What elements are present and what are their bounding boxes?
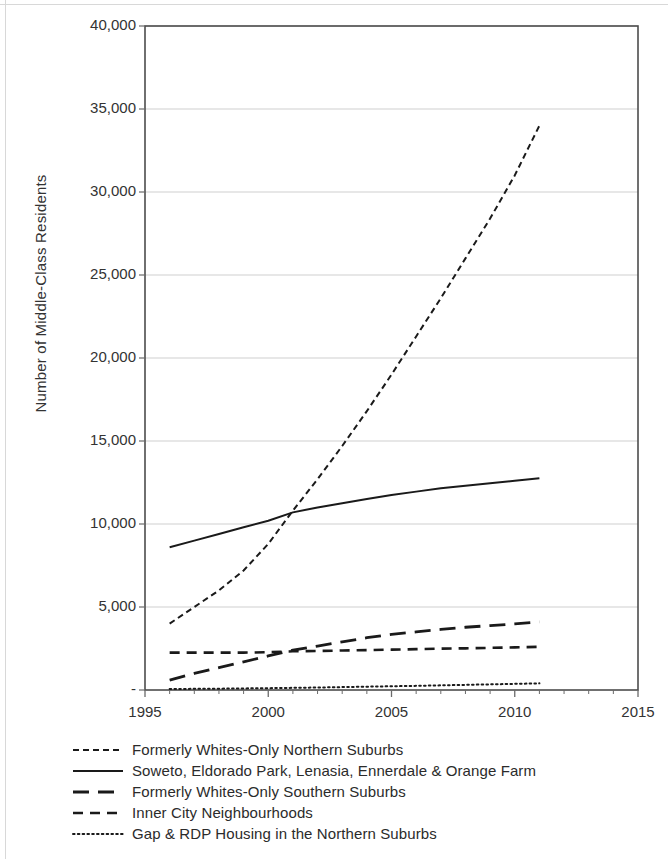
- series-line-3: [170, 622, 540, 680]
- legend-line-icon: [72, 743, 124, 757]
- series-line-4: [170, 647, 540, 653]
- legend-item[interactable]: Gap & RDP Housing in the Northern Suburb…: [72, 823, 662, 844]
- legend-item[interactable]: Formerly Whites-Only Southern Suburbs: [72, 781, 662, 802]
- legend-line-icon: [72, 827, 124, 841]
- legend-line-icon: [72, 806, 124, 820]
- chart-legend: Formerly Whites-Only Northern SuburbsSow…: [72, 739, 662, 844]
- series-line-1: [170, 126, 540, 624]
- legend-line-icon: [72, 764, 124, 778]
- legend-line-icon: [72, 785, 124, 799]
- legend-label: Gap & RDP Housing in the Northern Suburb…: [132, 825, 437, 842]
- legend-item[interactable]: Soweto, Eldorado Park, Lenasia, Ennerdal…: [72, 760, 662, 781]
- series-line-2: [170, 478, 540, 547]
- line-chart-figure: Number of Middle-Class Residents -5,0001…: [0, 0, 668, 859]
- legend-label: Formerly Whites-Only Northern Suburbs: [132, 741, 403, 758]
- legend-item[interactable]: Formerly Whites-Only Northern Suburbs: [72, 739, 662, 760]
- plot-area: [0, 0, 668, 720]
- series-line-5: [170, 683, 540, 689]
- legend-label: Formerly Whites-Only Southern Suburbs: [132, 783, 406, 800]
- legend-label: Inner City Neighbourhoods: [132, 804, 313, 821]
- legend-item[interactable]: Inner City Neighbourhoods: [72, 802, 662, 823]
- legend-label: Soweto, Eldorado Park, Lenasia, Ennerdal…: [132, 762, 536, 779]
